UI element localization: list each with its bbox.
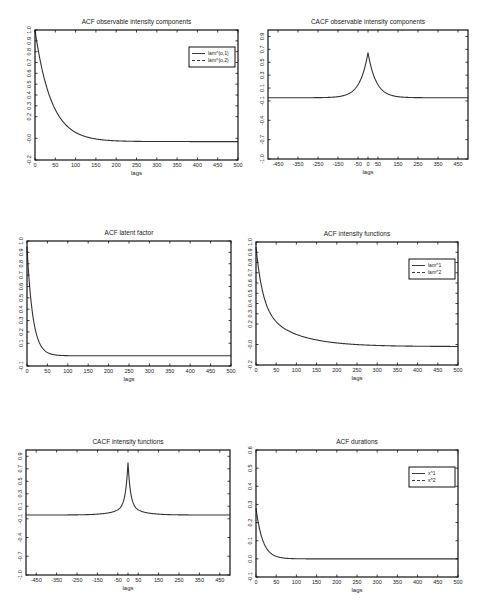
x-tick-label: 450 (433, 579, 442, 585)
x-tick-label: 300 (373, 579, 382, 585)
x-tick-label: 50 (273, 579, 279, 585)
x-tick-label: 200 (332, 579, 341, 585)
y-tick-label: 0.6 (247, 446, 253, 454)
x-tick-label: 500 (453, 579, 462, 585)
legend: x^1x^2 (409, 467, 455, 487)
legend-entry: x^2 (428, 477, 436, 483)
plot-area: 050100150200250300350400450500-0.10.00.1… (0, 0, 481, 616)
y-tick-label: 0.5 (247, 464, 253, 472)
y-tick-label: 0.0 (247, 555, 253, 563)
x-tick-label: 100 (292, 579, 301, 585)
y-tick-label: 0.3 (247, 501, 253, 509)
y-tick-label: 0.4 (247, 482, 253, 490)
data-line (256, 508, 458, 559)
legend-entry: x^1 (428, 470, 436, 476)
x-tick-label: 350 (393, 579, 402, 585)
y-tick-label: 0.2 (247, 519, 253, 527)
x-tick-label: 400 (413, 579, 422, 585)
y-tick-label: -0.1 (247, 572, 253, 581)
x-tick-label: 150 (312, 579, 321, 585)
x-tick-label: 0 (254, 579, 257, 585)
x-tick-label: 250 (352, 579, 361, 585)
y-tick-label: 0.1 (247, 537, 253, 545)
